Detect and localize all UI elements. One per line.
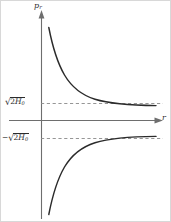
radicand-negative: 2H0 bbox=[13, 133, 29, 143]
radicand-positive: 2H0 bbox=[10, 97, 26, 107]
x-axis-label: r bbox=[162, 114, 166, 122]
asymptote-positive-label: √2H0 bbox=[5, 97, 25, 107]
y-axis-label: pr bbox=[34, 2, 42, 11]
curve-upper-branch bbox=[49, 28, 156, 106]
plot-figure: pr r √2H0 −√2H0 bbox=[0, 0, 171, 222]
y-axis-label-subscript: r bbox=[39, 4, 42, 10]
radical-negative: −√2H0 bbox=[2, 133, 29, 143]
plot-canvas bbox=[1, 1, 171, 222]
curve-lower-branch bbox=[49, 136, 156, 214]
radicand-subscript: 0 bbox=[25, 136, 28, 142]
y-axis-arrowhead bbox=[39, 10, 45, 19]
asymptote-negative-label: −√2H0 bbox=[2, 133, 29, 143]
radical-positive: √2H0 bbox=[5, 97, 25, 107]
radicand-subscript: 0 bbox=[22, 100, 25, 106]
